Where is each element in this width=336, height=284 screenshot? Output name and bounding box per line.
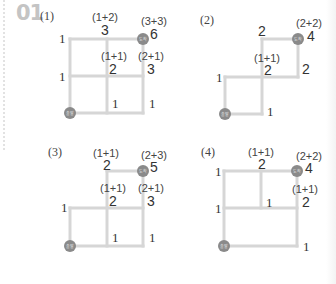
edge-label: 1 bbox=[112, 97, 119, 110]
node-value: 3 bbox=[101, 23, 109, 37]
panel-label: (3) bbox=[48, 145, 62, 160]
svg-text:출발: 출발 bbox=[66, 243, 74, 249]
edge-label: 1 bbox=[215, 202, 222, 215]
node-value: 2 bbox=[258, 24, 266, 38]
node-value: 3 bbox=[147, 194, 155, 208]
edge-label: 2 bbox=[302, 62, 310, 76]
panel-label: (2) bbox=[200, 13, 214, 28]
node-value: 3 bbox=[147, 62, 155, 76]
edge-label: 1 bbox=[61, 201, 68, 214]
svg-text:출발: 출발 bbox=[66, 110, 74, 116]
node-value: 2 bbox=[103, 158, 111, 172]
svg-text:도착: 도착 bbox=[293, 168, 301, 174]
edge-label: 1 bbox=[59, 32, 66, 45]
edge-label: 1 bbox=[149, 231, 156, 244]
node-value: 2 bbox=[258, 157, 266, 171]
panel-2-grid bbox=[225, 39, 298, 114]
edge-label: 1 bbox=[215, 165, 222, 178]
node-value: 2 bbox=[109, 62, 117, 76]
edge-label: 1 bbox=[267, 105, 274, 118]
node-value: 2 bbox=[264, 63, 272, 77]
node-value: 4 bbox=[307, 29, 315, 43]
edge-label: 1 bbox=[216, 71, 223, 84]
node-value: 4 bbox=[305, 161, 313, 175]
svg-text:출발: 출발 bbox=[221, 111, 229, 117]
svg-text:도착: 도착 bbox=[139, 36, 147, 42]
edge-label: 1 bbox=[112, 231, 119, 244]
path-diagrams: 출발도착 출발도착 출발도착 출발도착 bbox=[0, 0, 336, 284]
node-value: 2 bbox=[302, 195, 310, 209]
node-value: 5 bbox=[150, 160, 158, 174]
panel-label: (4) bbox=[201, 145, 215, 160]
node-value: 2 bbox=[109, 194, 117, 208]
edge-label: 1 bbox=[149, 97, 156, 110]
edge-label: 1 bbox=[303, 240, 310, 253]
svg-text:도착: 도착 bbox=[139, 168, 147, 174]
panel-label: (1) bbox=[40, 9, 54, 24]
edge-label: 1 bbox=[59, 70, 66, 83]
edge-label: 1 bbox=[266, 196, 273, 209]
node-value: 6 bbox=[150, 27, 158, 41]
svg-text:출발: 출발 bbox=[220, 243, 228, 249]
panel-4-grid bbox=[224, 171, 297, 246]
svg-text:도착: 도착 bbox=[294, 36, 302, 42]
